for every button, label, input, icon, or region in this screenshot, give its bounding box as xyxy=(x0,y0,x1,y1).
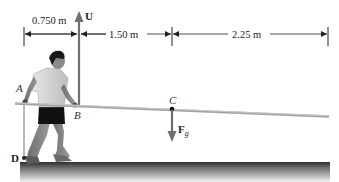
point-c-label: C xyxy=(169,94,177,106)
dimension-label-1-50: 1.50 m xyxy=(109,29,138,40)
point-d-label: D xyxy=(11,152,19,164)
dimension-lines xyxy=(24,27,328,46)
person-figure xyxy=(22,51,77,164)
dimension-label-2-25: 2.25 m xyxy=(232,29,261,40)
dimension-label-0-750: 0.750 m xyxy=(32,15,66,26)
point-d-marker xyxy=(22,156,26,160)
force-fg-label: Fg xyxy=(178,123,189,138)
force-fg-arrow xyxy=(168,110,177,142)
point-a-label: A xyxy=(15,82,23,94)
diagram-canvas: 0.750 m 1.50 m 2.25 m U xyxy=(0,0,339,182)
force-u-arrow xyxy=(75,11,84,105)
point-b-label: B xyxy=(74,109,81,121)
ground xyxy=(20,162,330,182)
force-u-label: U xyxy=(85,10,93,22)
